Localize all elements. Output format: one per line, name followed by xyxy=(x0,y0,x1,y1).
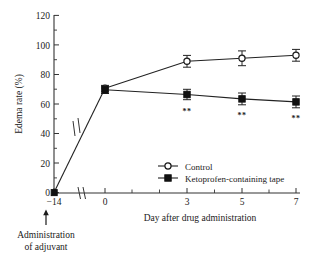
ketoprofen-line xyxy=(105,90,296,102)
control-point-day3 xyxy=(184,58,190,64)
x-tick-label-5: 5 xyxy=(240,197,245,207)
control-point-day5 xyxy=(239,55,245,61)
legend-label-ketoprofen: Ketoprofen-containing tape xyxy=(185,174,284,184)
y-tick-label-80: 80 xyxy=(41,70,51,80)
up-arrow-icon xyxy=(43,210,49,226)
ketoprofen-point-day3 xyxy=(184,91,190,97)
legend-entry-ketoprofen[interactable]: Ketoprofen-containing tape xyxy=(158,174,284,184)
figure-container: 120 100 80 60 40 20 0 Edema rate (%) xyxy=(0,0,313,256)
ketoprofen-point-day0 xyxy=(102,87,108,93)
ketoprofen-point-day5 xyxy=(239,96,245,102)
edema-rate-line-chart: 120 100 80 60 40 20 0 Edema rate (%) xyxy=(0,0,313,256)
open-circle-icon xyxy=(165,163,171,169)
x-tick-label-neg14: −14 xyxy=(47,197,62,207)
x-axis: −14 0 3 5 7 Day after drug administratio… xyxy=(47,187,300,223)
x-tick-label-0: 0 xyxy=(103,197,108,207)
x-tick-label-3: 3 xyxy=(185,197,190,207)
x-axis-title: Day after drug administration xyxy=(144,213,257,223)
x-tick-label-7: 7 xyxy=(294,197,299,207)
ketoprofen-point-day7 xyxy=(293,99,299,105)
y-tick-label-40: 40 xyxy=(41,129,51,139)
rise-break-icon xyxy=(73,118,80,136)
y-tick-label-60: 60 xyxy=(41,100,51,110)
y-tick-label-100: 100 xyxy=(36,41,51,51)
baseline-point-day-neg14 xyxy=(51,190,57,196)
y-axis-title: Edema rate (%) xyxy=(14,74,25,134)
significance-day7: ** xyxy=(292,114,301,123)
significance-day5: ** xyxy=(238,111,247,120)
series-control xyxy=(54,49,300,192)
control-line xyxy=(105,55,296,88)
y-tick-label-120: 120 xyxy=(36,11,51,21)
control-point-day7 xyxy=(293,52,299,58)
legend-entry-control[interactable]: Control xyxy=(158,162,213,172)
adjuvant-annotation: Administration of adjuvant xyxy=(17,210,75,253)
y-tick-label-20: 20 xyxy=(41,159,51,169)
significance-day3: ** xyxy=(183,107,192,116)
y-axis: 120 100 80 60 40 20 0 Edema rate (%) xyxy=(14,11,59,198)
adjuvant-annotation-line1: Administration xyxy=(17,230,75,240)
filled-square-icon xyxy=(165,175,171,181)
control-line-rise xyxy=(54,88,105,192)
legend-label-control: Control xyxy=(185,162,213,172)
adjuvant-annotation-line2: of adjuvant xyxy=(24,242,67,252)
legend: Control Ketoprofen-containing tape xyxy=(158,162,284,184)
